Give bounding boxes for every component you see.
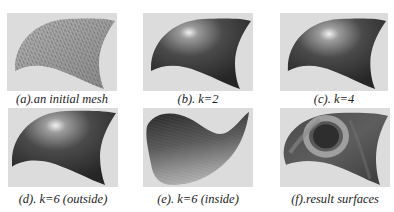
surface-k4-image bbox=[280, 13, 388, 91]
initial-mesh-image bbox=[7, 13, 117, 91]
surface-k6-inside-image bbox=[143, 108, 253, 187]
caption-a: (a).an initial mesh bbox=[4, 92, 120, 107]
caption-c: (c). k=4 bbox=[276, 92, 392, 107]
caption-f: (f).result surfaces bbox=[276, 192, 394, 207]
caption-d: (d). k=6 (outside) bbox=[3, 192, 123, 207]
result-surface-image bbox=[280, 108, 390, 187]
surface-k6-outside-image bbox=[8, 108, 118, 187]
caption-b: (b). k=2 bbox=[140, 92, 256, 107]
caption-e: (e). k=6 (inside) bbox=[139, 192, 257, 207]
surface-k2-image bbox=[143, 13, 253, 91]
